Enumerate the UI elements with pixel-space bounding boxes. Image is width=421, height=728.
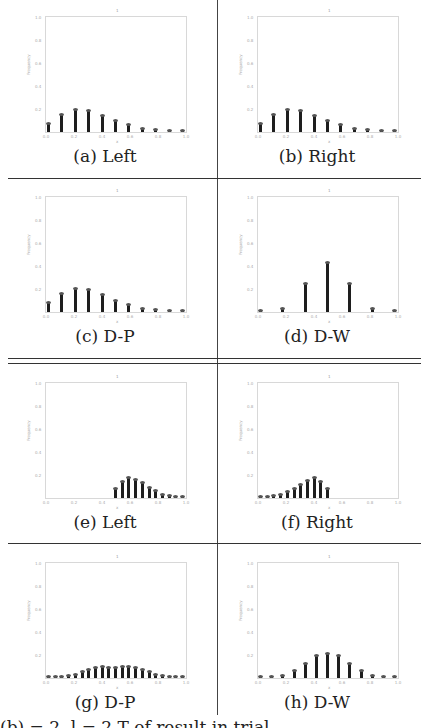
- y-tick-label: 0.6: [247, 427, 253, 432]
- y-tick-label: 0.8: [247, 584, 253, 589]
- y-tick-label: 1.0: [35, 195, 41, 200]
- bar: [114, 121, 117, 133]
- x-tick-label: 0.8: [155, 134, 161, 139]
- y-axis-label: Frequency: [238, 600, 243, 621]
- bar: [382, 677, 385, 678]
- plot-area: 11.00.80.60.40.20.00.20.40.60.81.0Freque…: [257, 562, 399, 679]
- panel-caption: (b) Right: [212, 146, 421, 166]
- y-tick-label: 0.4: [247, 84, 253, 89]
- panel-caption: (a) Left: [0, 146, 210, 166]
- bar: [74, 675, 77, 678]
- bar: [141, 309, 144, 312]
- bar: [168, 311, 171, 312]
- bar: [121, 482, 124, 498]
- bar: [154, 491, 157, 498]
- bar: [371, 676, 374, 678]
- x-tick-label: 0.6: [339, 314, 345, 319]
- bar: [286, 110, 289, 132]
- bar: [87, 111, 90, 132]
- chart-panel-b: 11.00.80.60.40.20.00.20.40.60.81.0Freque…: [212, 10, 421, 180]
- bar: [47, 677, 50, 678]
- bar: [168, 131, 171, 132]
- chart-panel-a: 11.00.80.60.40.20.00.20.40.60.81.0Freque…: [0, 10, 210, 180]
- bar: [393, 311, 396, 312]
- bar: [348, 284, 351, 312]
- plot-title: 1: [328, 8, 331, 13]
- bar: [181, 497, 184, 498]
- y-tick-label: 0.2: [35, 653, 41, 658]
- x-axis-label: x: [116, 505, 118, 510]
- x-tick-label: 0.4: [311, 680, 317, 685]
- bar: [304, 284, 307, 312]
- y-tick-label: 0.6: [35, 427, 41, 432]
- x-tick-label: 0.2: [283, 134, 289, 139]
- y-tick-label: 0.2: [35, 473, 41, 478]
- bar: [348, 664, 351, 678]
- bar: [161, 676, 164, 678]
- figure-caption-clipped: (b) = 2, l = 2 T of result in trial: [0, 717, 421, 728]
- bar: [101, 116, 104, 132]
- bar: [168, 677, 171, 678]
- bar: [293, 671, 296, 678]
- bar: [315, 656, 318, 678]
- y-tick-label: 0.4: [35, 450, 41, 455]
- y-tick-label: 0.4: [35, 630, 41, 635]
- bar: [114, 489, 117, 498]
- y-tick-label: 0.8: [35, 584, 41, 589]
- x-tick-label: 0.2: [283, 500, 289, 505]
- chart-panel-h: 11.00.80.60.40.20.00.20.40.60.81.0Freque…: [212, 556, 421, 726]
- bar: [127, 478, 130, 498]
- y-tick-label: 0.8: [35, 218, 41, 223]
- x-tick-label: 0.2: [283, 680, 289, 685]
- bar: [141, 670, 144, 678]
- bar: [259, 124, 262, 132]
- bar: [74, 110, 77, 132]
- y-tick-label: 0.6: [247, 607, 253, 612]
- bar: [299, 111, 302, 132]
- y-tick-label: 1.0: [247, 381, 253, 386]
- plot-title: 1: [116, 554, 119, 559]
- bar: [47, 124, 50, 132]
- plot-area: 11.00.80.60.40.20.00.20.40.60.81.0Freque…: [45, 562, 187, 679]
- x-tick-label: 1.0: [183, 134, 189, 139]
- bar: [337, 656, 340, 678]
- bar: [107, 668, 110, 678]
- bar: [393, 131, 396, 132]
- panel-caption: (f) Right: [212, 512, 421, 532]
- x-tick-label: 1.0: [183, 680, 189, 685]
- bar: [174, 497, 177, 498]
- bar: [181, 131, 184, 132]
- x-tick-label: 0.8: [155, 680, 161, 685]
- x-axis-label: x: [328, 319, 330, 324]
- y-tick-label: 0.8: [247, 404, 253, 409]
- plot-area: 11.00.80.60.40.20.00.20.40.60.81.0Freque…: [257, 382, 399, 499]
- bar: [141, 483, 144, 498]
- x-tick-label: 1.0: [395, 680, 401, 685]
- y-tick-label: 0.8: [247, 38, 253, 43]
- bar: [313, 478, 316, 498]
- bar: [141, 129, 144, 132]
- bar: [326, 489, 329, 498]
- y-tick-label: 0.6: [247, 241, 253, 246]
- chart-panel-c: 11.00.80.60.40.20.00.20.40.60.81.0Freque…: [0, 190, 210, 360]
- bar: [319, 482, 322, 498]
- bar: [148, 488, 151, 498]
- y-tick-label: 0.8: [247, 218, 253, 223]
- bar: [74, 289, 77, 312]
- chart-panel-d: 11.00.80.60.40.20.00.20.40.60.81.0Freque…: [212, 190, 421, 360]
- bar: [266, 497, 269, 498]
- bar: [304, 664, 307, 678]
- x-tick-label: 0.2: [71, 314, 77, 319]
- bar: [87, 290, 90, 312]
- x-tick-label: 0.4: [99, 680, 105, 685]
- x-axis-label: x: [328, 685, 330, 690]
- y-tick-label: 0.2: [247, 653, 253, 658]
- x-tick-label: 0.0: [255, 500, 261, 505]
- x-tick-label: 0.8: [367, 134, 373, 139]
- x-tick-label: 0.4: [99, 314, 105, 319]
- bar: [272, 115, 275, 132]
- plot-title: 1: [116, 188, 119, 193]
- y-axis-label: Frequency: [238, 54, 243, 75]
- x-tick-label: 0.0: [43, 314, 49, 319]
- x-axis-label: x: [328, 139, 330, 144]
